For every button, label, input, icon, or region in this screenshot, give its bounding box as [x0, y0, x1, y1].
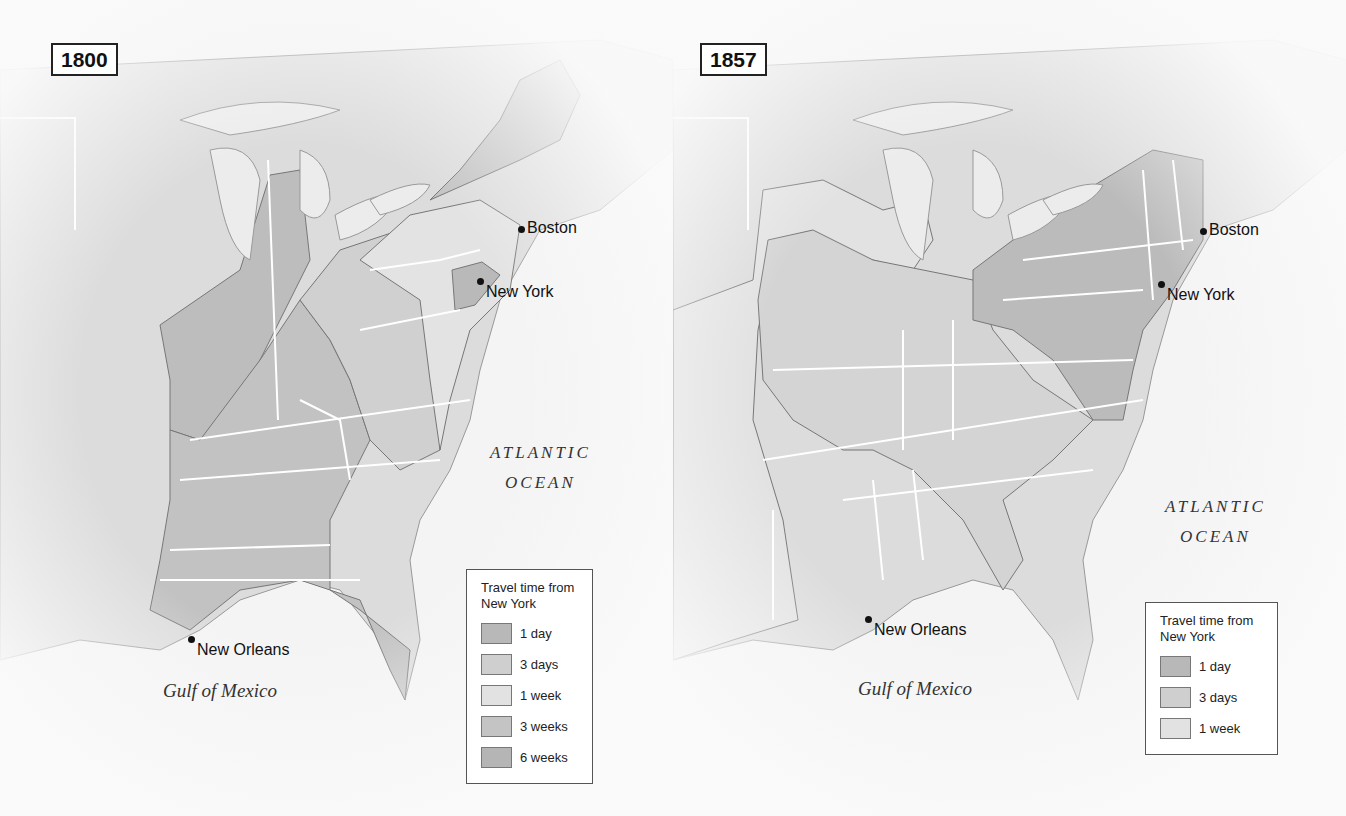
- legend-item-3-days: 3 days: [481, 649, 580, 680]
- swatch-icon: [1160, 656, 1191, 677]
- swatch-icon: [481, 654, 512, 675]
- city-dot-icon: [1158, 281, 1165, 288]
- legend-label: 3 weeks: [520, 719, 568, 734]
- legend-item-1-day: 1 day: [481, 618, 580, 649]
- legend-label: 1 day: [1199, 659, 1231, 674]
- legend-label: 1 week: [1199, 721, 1240, 736]
- city-label: New Orleans: [874, 621, 966, 638]
- city-label: Boston: [1209, 221, 1259, 238]
- legend-item-3-days: 3 days: [1160, 682, 1265, 713]
- legend-item-3-weeks: 3 weeks: [481, 711, 580, 742]
- legend-item-6-weeks: 6 weeks: [481, 742, 580, 773]
- city-new-york: New York: [1167, 286, 1235, 304]
- city-boston: Boston: [1209, 221, 1259, 239]
- atlantic-line1: ATLANTIC: [490, 438, 591, 468]
- swatch-icon: [481, 747, 512, 768]
- city-new-orleans: New Orleans: [874, 621, 966, 639]
- city-label: New York: [1167, 286, 1235, 303]
- city-dot-icon: [188, 636, 195, 643]
- city-dot-icon: [477, 278, 484, 285]
- atlantic-line1: ATLANTIC: [1165, 492, 1266, 522]
- city-label: Boston: [527, 219, 577, 236]
- map-panel-1800: 1800 Boston New York New Orleans ATLANTI…: [0, 0, 673, 816]
- map-panel-1857: 1857 Boston New York New Orleans ATLANTI…: [673, 0, 1346, 816]
- legend-label: 3 days: [1199, 690, 1237, 705]
- city-dot-icon: [518, 226, 525, 233]
- legend-title: Travel time from New York: [481, 580, 580, 612]
- swatch-icon: [1160, 687, 1191, 708]
- city-label: New Orleans: [197, 641, 289, 658]
- legend-title: Travel time from New York: [1160, 613, 1265, 645]
- atlantic-line2: OCEAN: [1165, 522, 1266, 552]
- city-boston: Boston: [527, 219, 577, 237]
- atlantic-ocean-label: ATLANTIC OCEAN: [490, 438, 591, 498]
- atlantic-line2: OCEAN: [490, 468, 591, 498]
- gulf-of-mexico-label: Gulf of Mexico: [163, 680, 277, 702]
- legend-item-1-week: 1 week: [481, 680, 580, 711]
- city-new-orleans: New Orleans: [197, 641, 289, 659]
- swatch-icon: [481, 685, 512, 706]
- year-label: 1857: [700, 43, 767, 76]
- city-label: New York: [486, 283, 554, 300]
- legend-item-1-day: 1 day: [1160, 651, 1265, 682]
- swatch-icon: [481, 716, 512, 737]
- legend-1800: Travel time from New York 1 day 3 days 1…: [466, 569, 593, 784]
- gulf-of-mexico-label: Gulf of Mexico: [858, 678, 972, 700]
- legend-label: 3 days: [520, 657, 558, 672]
- atlantic-ocean-label: ATLANTIC OCEAN: [1165, 492, 1266, 552]
- year-label: 1800: [51, 43, 118, 76]
- legend-label: 6 weeks: [520, 750, 568, 765]
- swatch-icon: [481, 623, 512, 644]
- legend-label: 1 day: [520, 626, 552, 641]
- city-new-york: New York: [486, 283, 554, 301]
- legend-label: 1 week: [520, 688, 561, 703]
- city-dot-icon: [865, 616, 872, 623]
- legend-1857: Travel time from New York 1 day 3 days 1…: [1145, 602, 1278, 755]
- city-dot-icon: [1200, 228, 1207, 235]
- legend-item-1-week: 1 week: [1160, 713, 1265, 744]
- swatch-icon: [1160, 718, 1191, 739]
